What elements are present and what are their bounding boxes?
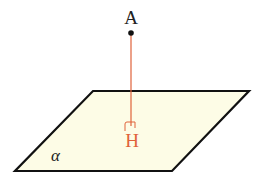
plane-label: α: [51, 146, 61, 165]
foot-h-label: H: [125, 130, 139, 151]
diagram-canvas: α A H: [0, 0, 255, 181]
point-a-label: A: [124, 7, 138, 28]
point-a: [128, 30, 134, 36]
